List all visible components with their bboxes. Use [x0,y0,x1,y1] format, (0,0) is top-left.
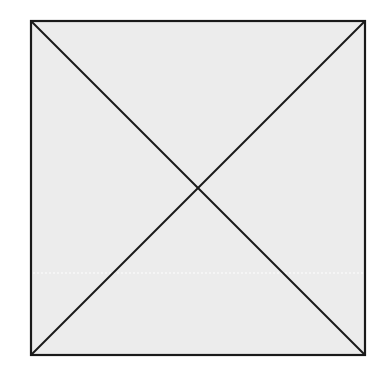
diagram-canvas [0,0,388,383]
square-diagonals-diagram [0,0,388,383]
